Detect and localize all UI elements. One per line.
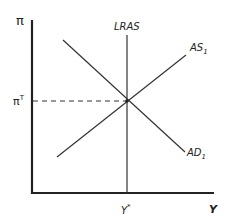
equilibrium-point: [125, 99, 129, 103]
ad-label-subscript: 1: [202, 153, 206, 161]
y-star-superscript: *: [127, 203, 131, 211]
x-axis-label: Y: [209, 204, 217, 215]
diagram-canvas: [0, 0, 226, 219]
ad-curve: [63, 40, 185, 152]
pi-target-label: πT: [13, 95, 24, 107]
as-label: AS1: [190, 43, 208, 56]
y-star-label: Y*: [121, 204, 131, 216]
as-curve: [57, 55, 186, 157]
ad-label: AD1: [187, 148, 206, 161]
as-label-text: AS: [190, 42, 203, 53]
pi-target-superscript: T: [20, 94, 24, 102]
as-label-subscript: 1: [203, 48, 207, 56]
y-axis-label: π: [16, 14, 24, 27]
ad-label-text: AD: [187, 147, 202, 158]
pi-target-base: π: [13, 95, 20, 108]
lras-label: LRAS: [114, 22, 140, 32]
